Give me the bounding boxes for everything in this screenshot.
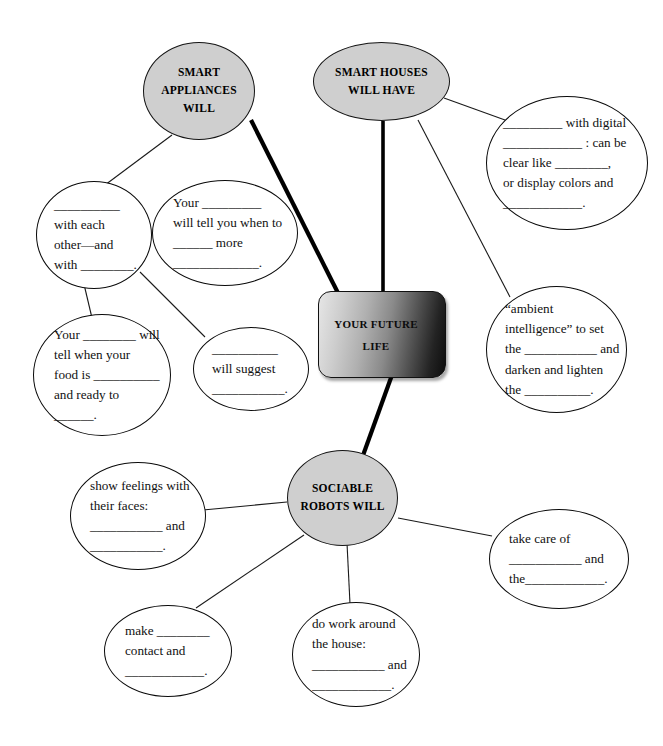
connector-houses-to-windows [444, 98, 505, 120]
detail-bubble-appliances-suggest[interactable]: __________ will suggest ___________. [193, 327, 309, 411]
bubble-text: Your ________ will tell when your food i… [54, 325, 160, 425]
detail-bubble-robots-care[interactable]: take care of ___________ and the________… [489, 509, 629, 609]
bubble-text: take care of ___________ and the________… [509, 529, 608, 589]
connector-robots-to-feelings [203, 502, 287, 510]
main-node-smart-houses[interactable]: SMART HOUSES WILL HAVE [313, 42, 450, 121]
detail-bubble-houses-windows[interactable]: _________ with digital ____________ : ca… [486, 96, 648, 230]
main-node-label: SOCIABLE ROBOTS WILL [300, 480, 384, 516]
bubble-text: __________ with each other—and with ____… [54, 195, 137, 275]
connector-robots-to-housework [347, 543, 350, 604]
bubble-text: do work around the house: ___________ an… [312, 614, 407, 694]
center-node-your-future-life[interactable]: YOUR FUTURE LIFE [318, 291, 446, 378]
detail-bubble-houses-ambient[interactable]: “ambient intelligence” to set the ______… [486, 286, 627, 413]
bubble-text: make ________ contact and ____________. [125, 621, 210, 681]
detail-bubble-robots-feelings[interactable]: show feelings with their faces: ________… [70, 462, 206, 570]
bubble-text: “ambient intelligence” to set the ______… [505, 299, 619, 399]
detail-bubble-appliances-talk[interactable]: __________ with each other—and with ____… [36, 181, 152, 289]
detail-bubble-robots-housework[interactable]: do work around the house: ___________ an… [292, 602, 420, 707]
bubble-text: Your _________ will tell you when to ___… [173, 193, 282, 273]
detail-bubble-appliances-remind[interactable]: Your _________ will tell you when to ___… [152, 180, 298, 286]
connector-robots-to-care [398, 518, 492, 536]
main-node-sociable-robots[interactable]: SOCIABLE ROBOTS WILL [287, 450, 398, 546]
connector-robots-to-contact [196, 535, 304, 608]
concept-map-canvas: SMART APPLIANCES WILL SMART HOUSES WILL … [0, 0, 663, 746]
bubble-text: __________ will suggest ___________. [212, 339, 288, 399]
main-node-label: SMART APPLIANCES WILL [161, 64, 236, 117]
detail-bubble-robots-contact[interactable]: make ________ contact and ____________. [104, 605, 232, 697]
center-node-label: YOUR FUTURE LIFE [334, 313, 418, 357]
bubble-text: _________ with digital ____________ : ca… [503, 113, 626, 213]
bubble-text: show feelings with their faces: ________… [90, 476, 190, 556]
main-node-label: SMART HOUSES WILL HAVE [335, 64, 428, 100]
main-node-smart-appliances[interactable]: SMART APPLIANCES WILL [143, 42, 255, 140]
connector-appliances-to-talk [105, 135, 172, 185]
detail-bubble-appliances-food[interactable]: Your ________ will tell when your food i… [33, 314, 171, 436]
